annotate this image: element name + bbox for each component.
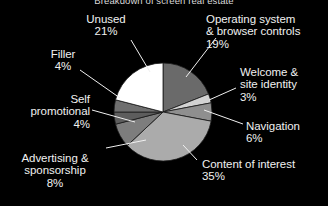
pie-label-self-promotional-text: Self	[70, 93, 90, 105]
pie-label-welcome: Welcome & site identity 3%	[240, 66, 326, 103]
pie-label-navigation-text: Navigation	[246, 120, 300, 132]
pie-label-navigation-pct: 6%	[246, 132, 324, 144]
pie-chart-figure: Breakdown of screen real estate Unused 2…	[0, 0, 328, 206]
pie-label-navigation: Navigation 6%	[246, 120, 324, 145]
pie-label-self-promotional-text2: promotional	[30, 105, 90, 117]
leader-line-unused	[131, 40, 150, 72]
pie-label-content-of-interest-text: Content of interest	[202, 158, 295, 170]
pie-label-content-of-interest-pct: 35%	[202, 170, 326, 182]
pie-label-operating-system-pct: 19%	[206, 38, 326, 50]
pie-label-unused-text: Unused	[86, 13, 125, 25]
pie-slice-group	[114, 63, 212, 161]
pie-label-content-of-interest: Content of interest 35%	[202, 158, 326, 183]
pie-label-filler-pct: 4%	[30, 60, 96, 72]
pie-label-unused-pct: 21%	[62, 25, 150, 37]
pie-label-filler: Filler 4%	[30, 48, 96, 73]
pie-label-advertising-text: Advertising &	[21, 152, 88, 164]
pie-label-advertising-pct: 8%	[2, 177, 108, 189]
pie-label-operating-system-text2: & browser controls	[206, 25, 300, 37]
pie-label-welcome-text: Welcome &	[240, 66, 298, 78]
pie-label-self-promotional: Self promotional 4%	[2, 93, 90, 130]
leader-line-welcome	[209, 88, 236, 100]
pie-label-filler-text: Filler	[51, 48, 76, 60]
pie-label-welcome-pct: 3%	[240, 91, 326, 103]
pie-label-advertising: Advertising & sponsorship 8%	[2, 152, 108, 189]
pie-label-operating-system: Operating system & browser controls 19%	[206, 13, 326, 50]
pie-label-unused: Unused 21%	[62, 13, 150, 38]
pie-label-welcome-text2: site identity	[240, 78, 297, 90]
pie-label-operating-system-text: Operating system	[206, 13, 295, 25]
pie-label-advertising-text2: sponsorship	[24, 164, 85, 176]
pie-label-self-promotional-pct: 4%	[2, 118, 90, 130]
